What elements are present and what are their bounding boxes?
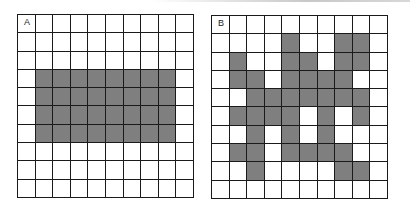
empty-cell	[141, 15, 158, 32]
shaded-cell	[53, 125, 70, 142]
shaded-cell	[106, 125, 123, 142]
empty-cell	[176, 15, 193, 32]
empty-cell	[230, 89, 247, 106]
shaded-cell	[335, 89, 352, 106]
shaded-cell	[282, 71, 299, 88]
empty-cell	[176, 70, 193, 87]
shaded-cell	[106, 70, 123, 87]
empty-cell	[212, 144, 229, 161]
shaded-cell	[265, 89, 282, 106]
empty-cell	[53, 143, 70, 160]
empty-cell	[212, 181, 229, 198]
shaded-cell	[265, 107, 282, 124]
empty-cell	[106, 15, 123, 32]
shaded-cell	[36, 106, 53, 123]
shaded-cell	[36, 70, 53, 87]
empty-cell	[370, 126, 387, 143]
empty-cell	[353, 181, 370, 198]
empty-cell	[282, 162, 299, 179]
empty-cell	[265, 34, 282, 51]
empty-cell	[124, 161, 141, 178]
empty-cell	[265, 16, 282, 33]
shaded-cell	[141, 106, 158, 123]
empty-cell	[18, 161, 35, 178]
empty-cell	[247, 16, 264, 33]
empty-cell	[265, 181, 282, 198]
shaded-cell	[159, 125, 176, 142]
empty-cell	[353, 144, 370, 161]
shaded-cell	[247, 89, 264, 106]
empty-cell	[265, 126, 282, 143]
shaded-cell	[247, 144, 264, 161]
empty-cell	[230, 162, 247, 179]
empty-cell	[159, 143, 176, 160]
empty-cell	[141, 161, 158, 178]
shaded-cell	[124, 88, 141, 105]
empty-cell	[247, 34, 264, 51]
empty-cell	[88, 52, 105, 69]
empty-cell	[106, 143, 123, 160]
empty-cell	[176, 33, 193, 50]
empty-cell	[230, 34, 247, 51]
empty-cell	[53, 15, 70, 32]
empty-cell	[212, 53, 229, 70]
empty-cell	[353, 126, 370, 143]
shaded-cell	[318, 107, 335, 124]
empty-cell	[353, 16, 370, 33]
empty-cell	[212, 89, 229, 106]
shaded-cell	[159, 88, 176, 105]
empty-cell	[18, 70, 35, 87]
shaded-cell	[124, 125, 141, 142]
shaded-cell	[53, 106, 70, 123]
shaded-cell	[88, 106, 105, 123]
shaded-cell	[106, 88, 123, 105]
empty-cell	[71, 161, 88, 178]
empty-cell	[18, 33, 35, 50]
empty-cell	[159, 33, 176, 50]
empty-cell	[318, 34, 335, 51]
shaded-cell	[335, 144, 352, 161]
empty-cell	[159, 180, 176, 197]
shaded-cell	[353, 53, 370, 70]
empty-cell	[18, 125, 35, 142]
empty-cell	[124, 180, 141, 197]
empty-cell	[370, 16, 387, 33]
empty-cell	[335, 16, 352, 33]
empty-cell	[318, 16, 335, 33]
empty-cell	[36, 180, 53, 197]
empty-cell	[159, 15, 176, 32]
empty-cell	[212, 162, 229, 179]
empty-cell	[141, 180, 158, 197]
empty-cell	[88, 143, 105, 160]
shaded-cell	[141, 125, 158, 142]
shaded-cell	[282, 53, 299, 70]
empty-cell	[247, 53, 264, 70]
shaded-cell	[335, 34, 352, 51]
top-edge-line	[150, 0, 410, 2]
shaded-cell	[282, 89, 299, 106]
empty-cell	[18, 106, 35, 123]
empty-cell	[370, 181, 387, 198]
shaded-cell	[282, 107, 299, 124]
empty-cell	[71, 33, 88, 50]
shaded-cell	[300, 89, 317, 106]
empty-cell	[36, 15, 53, 32]
empty-cell	[53, 180, 70, 197]
empty-cell	[106, 161, 123, 178]
empty-cell	[335, 107, 352, 124]
grid-panel-a: A	[17, 14, 194, 198]
empty-cell	[106, 33, 123, 50]
empty-cell	[141, 143, 158, 160]
shaded-cell	[53, 70, 70, 87]
shaded-cell	[71, 106, 88, 123]
empty-cell	[71, 52, 88, 69]
empty-cell	[176, 106, 193, 123]
shaded-cell	[141, 70, 158, 87]
empty-cell	[247, 181, 264, 198]
empty-cell	[18, 88, 35, 105]
empty-cell	[370, 71, 387, 88]
empty-cell	[370, 144, 387, 161]
empty-cell	[18, 180, 35, 197]
shaded-cell	[247, 107, 264, 124]
empty-cell	[300, 126, 317, 143]
